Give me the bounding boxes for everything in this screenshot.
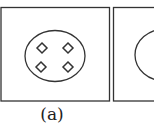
panel-b-circle <box>135 29 154 81</box>
figure-diagram <box>0 0 154 129</box>
diamond-marker-bottom-left <box>36 62 46 72</box>
panel-a-frame <box>1 8 110 102</box>
panel-a-ellipse <box>25 31 85 82</box>
panel-b-frame <box>114 8 155 102</box>
diamond-marker-top-right <box>63 43 73 53</box>
diamond-marker-bottom-right <box>63 62 73 72</box>
panel-b <box>114 8 155 102</box>
diamond-marker-top-left <box>37 43 47 53</box>
panel-a <box>1 8 110 102</box>
panel-a-caption: (a) <box>30 104 74 124</box>
